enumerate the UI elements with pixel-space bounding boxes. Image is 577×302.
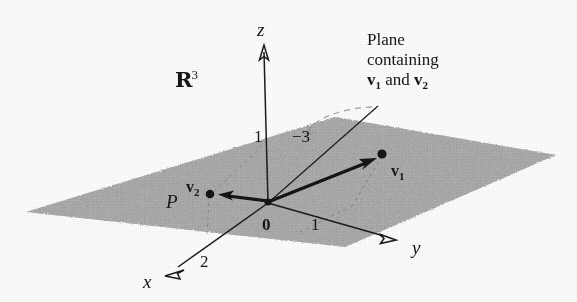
vector-label-v2-subscript: 2 (194, 186, 200, 198)
vector-label-v2: v2 (186, 179, 200, 198)
vector-label-v1-symbol: v (391, 162, 399, 179)
tick-label-x-2: 2 (200, 253, 209, 270)
plane-annotation-line-2: containing (367, 50, 439, 70)
plane-annotation-line-1: Plane (367, 30, 439, 50)
axis-label-y: y (412, 238, 420, 257)
tick-label-minus-3: −3 (292, 128, 310, 145)
tick-label-z-1: 1 (254, 128, 263, 145)
space-label-symbol: R (175, 67, 191, 92)
plane-annotation-conjunction: and (381, 70, 414, 89)
plane-annotation: Plane containing v1 and v2 (367, 30, 439, 92)
point-origin (264, 198, 271, 205)
plane-annotation-v2-sub: 2 (423, 79, 429, 91)
space-label-exponent: 3 (191, 67, 198, 82)
plane-annotation-v1: v (367, 70, 376, 89)
vector-label-v1: v1 (391, 163, 405, 182)
point-v2 (206, 190, 215, 199)
axis-label-x: x (143, 272, 151, 291)
space-label: R3 (175, 68, 198, 91)
plane-annotation-line-3: v1 and v2 (367, 70, 439, 92)
diagram-canvas (0, 0, 577, 302)
origin-label: 0 (262, 216, 271, 233)
plane-annotation-v2: v (414, 70, 423, 89)
r3-plane-diagram: R3 z y x 1 −3 1 2 0 P v2 v1 Plane contai… (0, 0, 577, 302)
point-v1 (377, 149, 386, 158)
tick-label-y-1: 1 (311, 216, 320, 233)
vector-label-v2-symbol: v (186, 178, 194, 195)
vector-label-v1-subscript: 1 (399, 170, 405, 182)
plane-label: P (166, 192, 178, 211)
axis-label-z: z (257, 20, 264, 39)
